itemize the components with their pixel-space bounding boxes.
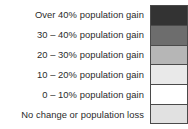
legend-item: 0 – 10% population gain bbox=[0, 84, 188, 104]
legend-item-label: 0 – 10% population gain bbox=[0, 89, 150, 100]
legend-item: 20 – 30% population gain bbox=[0, 45, 188, 65]
legend-swatch-cell bbox=[150, 104, 188, 124]
legend-color-swatch bbox=[151, 46, 187, 65]
legend-swatch-cell bbox=[150, 64, 188, 84]
legend-item-label: 30 – 40% population gain bbox=[0, 29, 150, 40]
map-legend: Over 40% population gain 30 – 40% popula… bbox=[0, 0, 188, 129]
legend-item: 10 – 20% population gain bbox=[0, 64, 188, 84]
legend-swatch-cell bbox=[150, 84, 188, 104]
legend-color-swatch bbox=[151, 26, 187, 45]
legend-item-label: 20 – 30% population gain bbox=[0, 49, 150, 60]
legend-item-label: No change or population loss bbox=[0, 109, 150, 120]
legend-color-swatch bbox=[151, 6, 187, 25]
legend-item-list: Over 40% population gain 30 – 40% popula… bbox=[0, 5, 188, 124]
legend-swatch-cell bbox=[150, 25, 188, 45]
legend-color-swatch bbox=[151, 105, 187, 123]
legend-swatch-cell bbox=[150, 45, 188, 65]
legend-item: 30 – 40% population gain bbox=[0, 25, 188, 45]
legend-color-swatch bbox=[151, 85, 187, 104]
legend-color-swatch bbox=[151, 65, 187, 84]
legend-item-label: Over 40% population gain bbox=[0, 9, 150, 20]
legend-item-label: 10 – 20% population gain bbox=[0, 69, 150, 80]
legend-item: Over 40% population gain bbox=[0, 5, 188, 25]
legend-item: No change or population loss bbox=[0, 104, 188, 124]
legend-swatch-cell bbox=[150, 5, 188, 25]
